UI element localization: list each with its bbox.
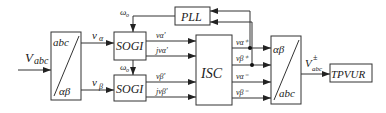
- sogi-block-top: SOGI: [114, 32, 146, 60]
- input-vabc: V abc: [18, 50, 51, 70]
- alphabeta-to-abc-block: αβ abc: [271, 36, 301, 104]
- svg-text:αβ: αβ: [59, 85, 71, 97]
- sogi-block-bottom: SOGI: [114, 75, 146, 101]
- tpvur-block: TPVUR: [330, 64, 372, 82]
- label-v-beta-prime: vβ': [156, 72, 166, 81]
- signal-omega-bottom: ω o: [120, 62, 129, 73]
- svg-text:v: v: [92, 76, 97, 88]
- isc-block: ISC: [196, 35, 232, 105]
- label-jv-alpha-prime: jvα': [155, 46, 168, 55]
- svg-text:abc: abc: [279, 87, 295, 99]
- svg-text:α: α: [99, 34, 104, 43]
- signal-v-abc-pm: V ± abc: [305, 53, 323, 73]
- svg-text:PLL: PLL: [180, 10, 202, 24]
- signal-v-beta: v β: [92, 76, 103, 91]
- svg-text:SOGI: SOGI: [116, 39, 144, 53]
- label-v-alpha-plus: vα⁺: [236, 38, 249, 47]
- svg-text:v: v: [92, 29, 97, 41]
- signal-v-alpha: v α: [92, 29, 104, 43]
- svg-text:SOGI: SOGI: [116, 82, 144, 96]
- svg-text:β: β: [98, 82, 103, 91]
- label-v-alpha-prime: vα': [156, 31, 166, 40]
- svg-text:o: o: [126, 67, 129, 73]
- abc-to-alphabeta-block: abc αβ: [51, 32, 81, 100]
- pll-block: PLL: [175, 7, 210, 25]
- svg-text:±: ±: [313, 53, 318, 62]
- svg-text:abc: abc: [34, 55, 49, 66]
- block-diagram: V abc abc αβ v α v β SOGI SOGI PLL ω o ω: [0, 0, 386, 113]
- label-jv-beta-prime: jvβ': [155, 87, 168, 96]
- svg-text:TPVUR: TPVUR: [331, 68, 366, 80]
- signal-omega-top: ω o: [120, 7, 129, 18]
- label-v-beta-minus: vβ⁻: [236, 88, 249, 97]
- label-v-alpha-minus: vα⁻: [236, 72, 249, 81]
- svg-text:αβ: αβ: [273, 43, 285, 55]
- svg-text:ISC: ISC: [200, 66, 223, 81]
- svg-text:abc: abc: [53, 36, 69, 48]
- svg-text:o: o: [126, 12, 129, 18]
- svg-text:abc: abc: [312, 65, 323, 73]
- label-v-beta-plus: vβ⁺: [236, 54, 249, 63]
